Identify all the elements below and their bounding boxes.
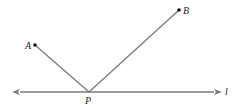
point-B [177,8,181,12]
label-B: B [183,5,189,16]
geometry-diagram: A B P l [0,0,241,109]
arrowhead-left-icon [12,89,20,95]
label-P: P [84,95,91,106]
point-A [33,43,37,47]
arrowhead-right-icon [214,89,222,95]
segment-PB [89,10,179,92]
label-l: l [225,86,228,97]
label-A: A [24,40,32,51]
segment-PA [35,45,89,92]
